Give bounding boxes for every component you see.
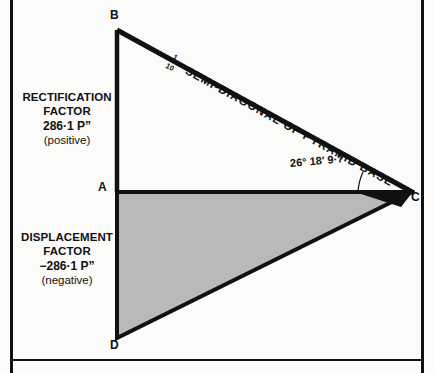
hypotenuse-label-text: SEMI-DIAGONAL OF PYRAMID BASE [184, 65, 396, 189]
displacement-line-2: FACTOR [14, 245, 120, 259]
figure-root: SEMI-DIAGONAL OF PYRAMID BASE 1 10 26° 1… [0, 0, 434, 373]
vertex-label-b: B [110, 8, 119, 22]
displacement-sign-note: (negative) [14, 274, 120, 288]
rectification-factor-caption: RECTIFICATION FACTOR 286·1 P” (positive) [14, 91, 120, 148]
diagram-svg: SEMI-DIAGONAL OF PYRAMID BASE 1 10 [0, 0, 434, 373]
rectification-value: 286·1 P” [14, 119, 120, 133]
displacement-line-1: DISPLACEMENT [14, 231, 120, 245]
displacement-value: −286·1 P” [14, 259, 120, 273]
rectification-sign-note: (positive) [14, 134, 120, 148]
displacement-factor-caption: DISPLACEMENT FACTOR −286·1 P” (negative) [14, 231, 120, 288]
rectification-line-2: FACTOR [14, 105, 120, 119]
vertex-label-a: A [98, 180, 107, 194]
angle-arc-at-c [358, 172, 363, 192]
vertex-label-d: D [110, 338, 119, 352]
hypotenuse-label-group: SEMI-DIAGONAL OF PYRAMID BASE 1 10 [162, 50, 397, 192]
displacement-triangle-acd [117, 192, 412, 338]
rectification-line-1: RECTIFICATION [14, 91, 120, 105]
vertex-label-c: C [411, 190, 420, 204]
